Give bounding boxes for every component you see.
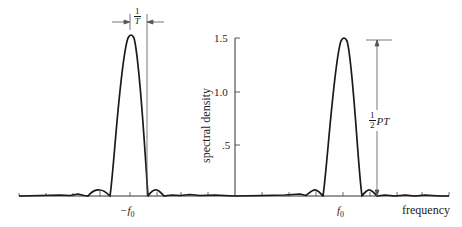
- ytick-label-1-0: 1.0: [214, 87, 228, 98]
- xtick-label-pos-f0: f0: [337, 205, 344, 219]
- x-axis-label: frequency: [402, 204, 450, 216]
- half-PT-fraction: 1 2: [369, 111, 376, 130]
- ytick-label-1-5: 1.5: [214, 33, 228, 44]
- xtick-label-neg-f0: −f0: [120, 205, 134, 219]
- one-over-T-denominator: T: [135, 17, 140, 26]
- one-over-T-annotation: [112, 14, 164, 196]
- ytick-label-0-5: .5: [222, 140, 230, 151]
- half-PT-suffix: PT: [377, 115, 390, 127]
- half-PT-denominator: 2: [370, 121, 375, 130]
- y-ticks: [235, 38, 240, 145]
- pos-f0-sub: 0: [340, 210, 344, 219]
- spectral-density-plot: [0, 0, 462, 227]
- neg-f0-main: −f: [120, 204, 130, 216]
- neg-f0-sub: 0: [130, 210, 134, 219]
- half-PT-label: 1 2 PT: [369, 110, 389, 131]
- one-over-T-label: 1 T: [134, 7, 141, 26]
- y-axis-label: spectral density: [199, 88, 214, 163]
